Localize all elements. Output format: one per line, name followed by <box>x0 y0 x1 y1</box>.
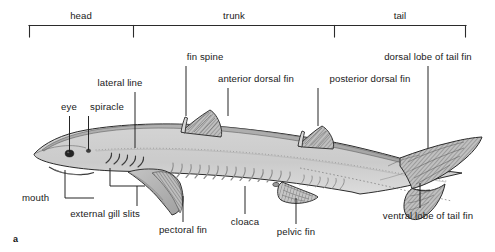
label-posterior-dorsal-fin: posterior dorsal fin <box>330 73 411 84</box>
label-cloaca: cloaca <box>231 216 259 227</box>
label-pelvic-fin: pelvic fin <box>277 226 315 237</box>
label-fin-spine: fin spine <box>187 51 224 62</box>
label-pectoral-fin: pectoral fin <box>159 224 207 235</box>
bracket-label-tail: tail <box>394 10 407 21</box>
label-spiracle: spiracle <box>90 101 124 112</box>
panel-letter: a <box>13 234 18 244</box>
anterior-dorsal-fin <box>181 110 222 137</box>
label-ventral-lobe-of-tail-fin: ventral lobe of tail fin <box>383 210 473 221</box>
eye-highlight <box>67 152 69 154</box>
shark-body-group <box>34 110 482 220</box>
label-lateral-line: lateral line <box>98 77 143 88</box>
region-bracket-group <box>29 26 466 38</box>
bracket-label-trunk: trunk <box>223 10 245 21</box>
label-eye: eye <box>61 101 77 112</box>
label-mouth: mouth <box>22 192 49 203</box>
posterior-dorsal-fin <box>298 126 334 149</box>
dorsal-lobe-of-tail-fin <box>400 137 482 189</box>
label-anterior-dorsal-fin: anterior dorsal fin <box>218 73 294 84</box>
label-dorsal-lobe-of-tail-fin: dorsal lobe of tail fin <box>384 51 472 62</box>
shark-anatomy-figure: head trunk tail eye spiracle lateral lin… <box>0 0 495 252</box>
bracket-label-head: head <box>70 10 92 21</box>
label-external-gill-slits: external gill slits <box>70 208 140 219</box>
cloaca-marking <box>273 182 279 186</box>
